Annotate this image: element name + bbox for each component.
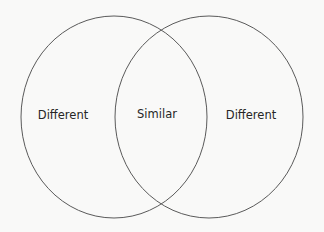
intersection-label: Similar <box>137 107 177 121</box>
right-set-label: Different <box>226 108 277 122</box>
left-set-label: Different <box>38 108 89 122</box>
venn-diagram: Different Similar Different <box>0 0 324 232</box>
